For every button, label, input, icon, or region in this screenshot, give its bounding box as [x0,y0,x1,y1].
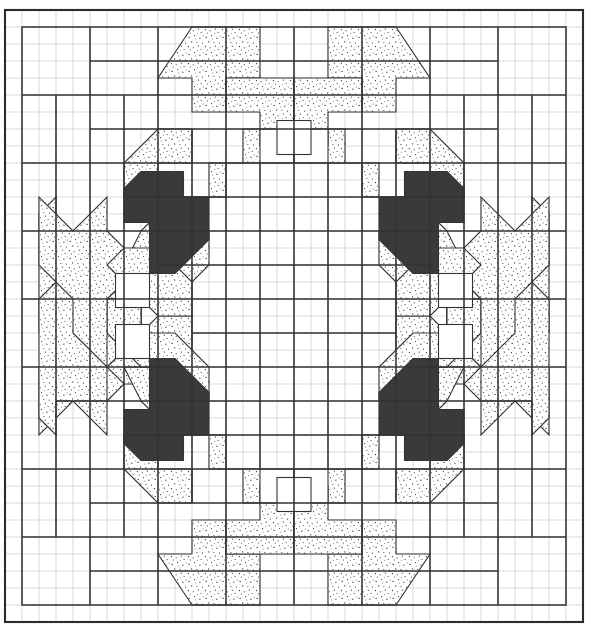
open-square-q1-1 [439,274,473,308]
open-square-q0-1 [116,274,150,308]
quilt-pattern-canvas [0,0,590,638]
open-square-q2-1 [116,325,150,359]
open-square-q3-1 [439,325,473,359]
quilt-pattern-page [0,0,590,638]
